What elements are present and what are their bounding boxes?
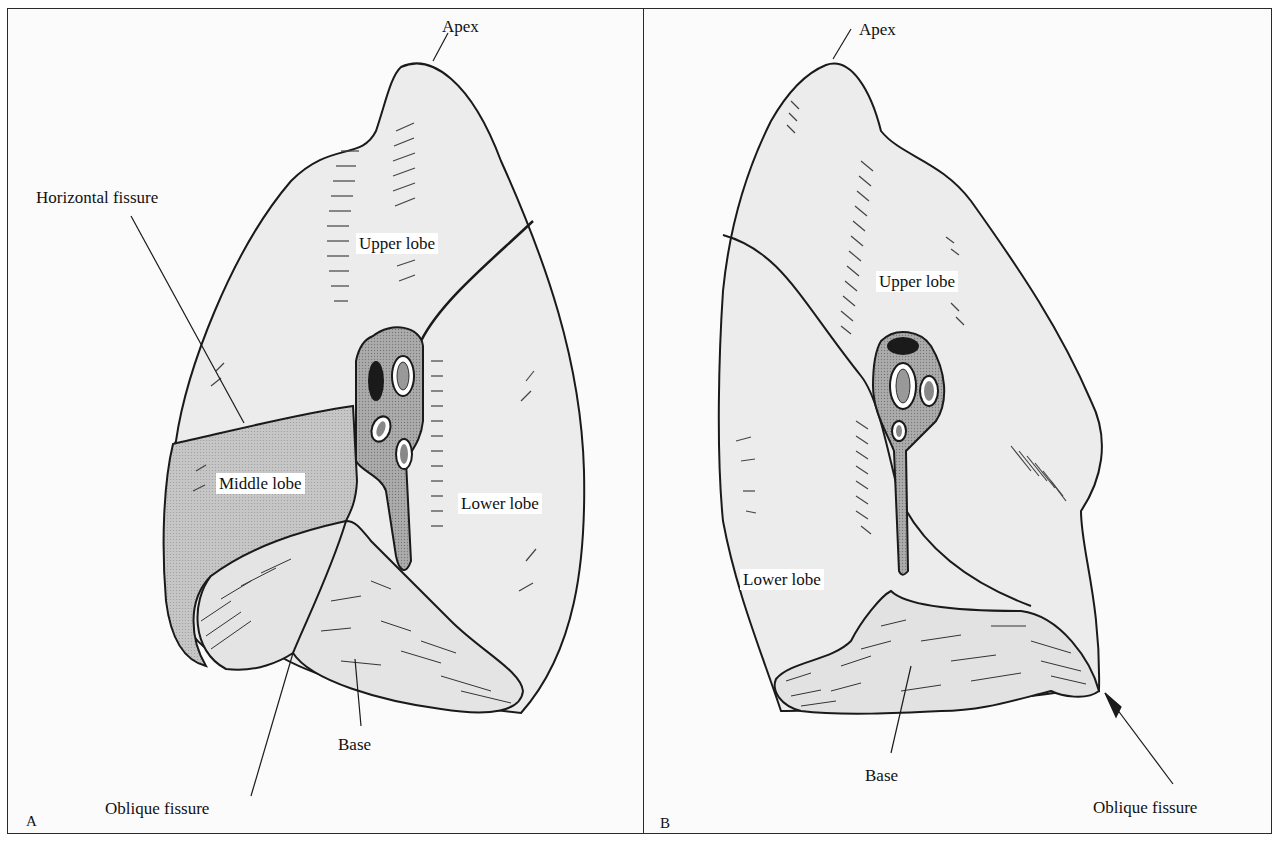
apex-leader: [833, 29, 851, 59]
lung-drawing-b: [644, 9, 1273, 835]
label-base: Base: [338, 736, 371, 753]
label-middle-lobe: Middle lobe: [216, 473, 305, 494]
panel-a: Apex Horizontal fissure Upper lobe Middl…: [7, 8, 644, 834]
lung-drawing-a: [8, 9, 645, 835]
label-oblique-fissure: Oblique fissure: [1093, 799, 1197, 816]
label-base: Base: [865, 767, 898, 784]
label-upper-lobe: Upper lobe: [356, 233, 438, 254]
label-lower-lobe: Lower lobe: [740, 569, 824, 590]
label-upper-lobe: Upper lobe: [876, 271, 958, 292]
label-oblique-fissure: Oblique fissure: [105, 800, 209, 817]
panel-letter-b: B: [660, 815, 670, 832]
label-apex: Apex: [442, 18, 479, 35]
label-lower-lobe: Lower lobe: [458, 493, 542, 514]
panel-b: Apex Upper lobe Lower lobe Base Oblique …: [643, 8, 1272, 834]
apex-leader: [433, 33, 448, 61]
oblique-fissure-leader: [251, 653, 293, 796]
panel-letter-a: A: [26, 813, 37, 830]
label-horizontal-fissure: Horizontal fissure: [36, 189, 158, 206]
label-apex: Apex: [859, 21, 896, 38]
